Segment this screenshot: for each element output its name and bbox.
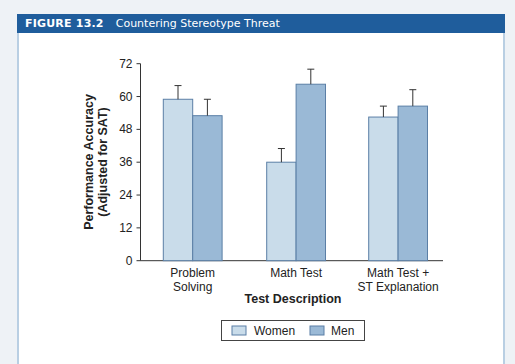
y-axis-title: Performance Accuracy <box>82 94 96 230</box>
y-tick-label: 0 <box>126 254 133 268</box>
bar-men <box>296 84 325 260</box>
x-category-label: Solving <box>173 280 212 294</box>
y-tick-label: 24 <box>119 188 133 202</box>
x-category-label: Problem <box>170 266 215 280</box>
y-tick-label: 72 <box>119 57 133 71</box>
y-tick-label: 48 <box>119 122 133 136</box>
legend-label-women: Women <box>254 324 295 338</box>
legend-swatch-men <box>310 326 324 335</box>
bar-women <box>163 99 192 260</box>
x-category-label: Math Test <box>270 266 322 280</box>
y-axis-subtitle: (Adjusted for SAT) <box>96 107 110 216</box>
y-tick-label: 12 <box>119 221 133 235</box>
legend-label-men: Men <box>331 324 354 338</box>
bar-men <box>398 106 427 261</box>
x-category-label: ST Explanation <box>358 280 439 294</box>
y-tick-label: 36 <box>119 155 133 169</box>
bar-men <box>193 116 222 261</box>
bar-women <box>267 162 296 261</box>
y-tick-label: 60 <box>119 90 133 104</box>
bar-women <box>369 117 398 261</box>
x-category-label: Math Test + <box>367 266 429 280</box>
legend-swatch-women <box>232 326 246 335</box>
x-axis-title: Test Description <box>244 292 341 306</box>
